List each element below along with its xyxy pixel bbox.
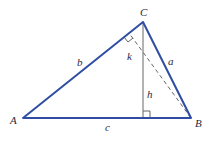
side-label-a: a <box>168 55 174 67</box>
right-angle-mark-h <box>143 111 150 118</box>
side-label-b: b <box>77 56 83 68</box>
segment-label-k: k <box>127 50 133 62</box>
side-label-c: c <box>105 121 110 133</box>
triangle-diagram: A B C a b c h k <box>0 0 213 142</box>
altitude-k <box>129 33 191 118</box>
right-angle-mark-k <box>124 37 133 42</box>
vertex-label-b: B <box>195 117 202 129</box>
vertex-label-a: A <box>9 114 17 126</box>
segment-label-h: h <box>147 88 153 100</box>
triangle-sides <box>23 22 191 118</box>
vertex-label-c: C <box>140 6 148 18</box>
